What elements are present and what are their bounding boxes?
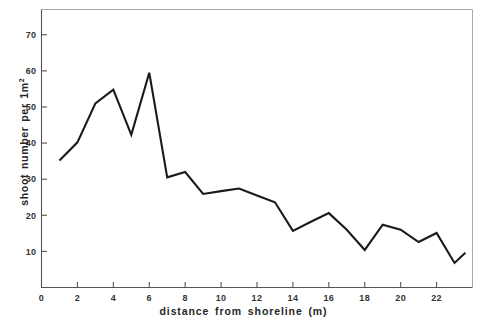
axis-ticks bbox=[42, 35, 437, 288]
x-tick-label: 18 bbox=[359, 293, 370, 303]
line-chart-plot: 102030405060700246810121416182022 bbox=[0, 0, 487, 325]
x-tick-label: 12 bbox=[252, 293, 263, 303]
y-axis-label-exponent: 2 bbox=[18, 78, 25, 82]
plot-frame bbox=[42, 10, 473, 288]
x-axis-label: distance from shoreline (m) bbox=[0, 305, 487, 317]
x-tick-label: 8 bbox=[182, 293, 187, 303]
y-axis-label-wrapper: shoot number per 1m2 bbox=[14, 27, 32, 257]
chart-figure: 102030405060700246810121416182022 distan… bbox=[0, 0, 487, 325]
axis-tick-labels: 102030405060700246810121416182022 bbox=[26, 30, 442, 302]
x-tick-label: 22 bbox=[431, 293, 442, 303]
data-series bbox=[59, 73, 465, 263]
x-tick-label: 2 bbox=[75, 293, 80, 303]
x-tick-label: 14 bbox=[288, 293, 299, 303]
y-axis-label: shoot number per 1m2 bbox=[18, 78, 30, 206]
x-tick-label: 20 bbox=[395, 293, 406, 303]
x-tick-label: 4 bbox=[111, 293, 116, 303]
y-axis-label-base: shoot number per 1m bbox=[18, 82, 30, 206]
x-tick-label: 16 bbox=[323, 293, 334, 303]
data-line-shoot-number bbox=[59, 73, 465, 263]
x-tick-label: 0 bbox=[39, 293, 44, 303]
x-tick-label: 6 bbox=[147, 293, 152, 303]
x-tick-label: 10 bbox=[216, 293, 227, 303]
